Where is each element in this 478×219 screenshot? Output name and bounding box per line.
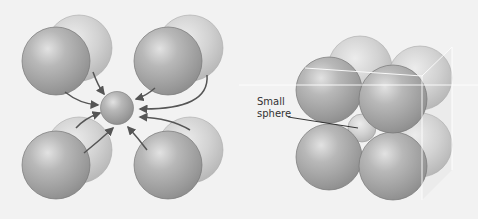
- front-sphere: [296, 124, 362, 190]
- front-sphere: [134, 131, 202, 199]
- front-sphere: [134, 27, 202, 95]
- front-sphere: [22, 131, 90, 199]
- front-sphere: [296, 57, 362, 123]
- small-sphere-label: Small sphere: [257, 96, 291, 120]
- diagram-canvas: [0, 0, 478, 219]
- front-sphere: [359, 132, 427, 200]
- small-sphere: [101, 92, 134, 125]
- front-sphere: [22, 27, 90, 95]
- left-panel: [22, 15, 223, 199]
- label-line-1: Small: [257, 96, 291, 108]
- label-line-2: sphere: [257, 108, 291, 120]
